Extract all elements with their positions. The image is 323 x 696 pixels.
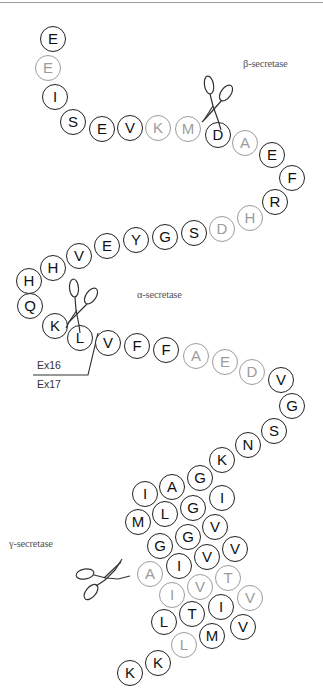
residue-circle: R	[262, 189, 288, 215]
residue-circle: F	[124, 333, 150, 359]
residue-circle: G	[187, 465, 213, 491]
residue-circle: G	[279, 393, 305, 419]
residue-circle: T	[179, 601, 205, 627]
residue-circle: V	[202, 514, 228, 540]
residue-circle: S	[181, 220, 207, 246]
residue-circle: K	[209, 447, 235, 473]
residue-circle: V	[268, 367, 294, 393]
residue-circle: F	[153, 337, 179, 363]
residue-circle: F	[279, 165, 305, 191]
residue-circle: E	[40, 26, 66, 52]
residue-circle: E	[35, 55, 61, 81]
residue-circle: D	[209, 216, 235, 242]
residue-circle: Q	[17, 293, 43, 319]
residue-circle: I	[209, 485, 235, 511]
residue-circle: K	[145, 115, 171, 141]
residue-circle: G	[152, 224, 178, 250]
residue-circle: D	[239, 359, 265, 385]
residue-circle: V	[117, 115, 143, 141]
residue-circle: A	[137, 561, 163, 587]
residue-circle: E	[212, 349, 238, 375]
residue-circle: E	[259, 142, 285, 168]
residue-circle: K	[117, 660, 143, 686]
residue-circle: I	[208, 594, 234, 620]
residue-circle: V	[237, 585, 263, 611]
residue-circle: N	[235, 432, 261, 458]
residue-circle: M	[125, 509, 151, 535]
residue-circle: T	[215, 565, 241, 591]
residue-circle: S	[261, 418, 287, 444]
residue-circle: M	[199, 623, 225, 649]
residue-circle: L	[151, 609, 177, 635]
residue-circle: Y	[123, 227, 149, 253]
residue-circle: I	[132, 481, 158, 507]
residue-circle: V	[194, 544, 220, 570]
residue-circle: L	[152, 501, 178, 527]
residue-circle: D	[205, 122, 231, 148]
residue-circle: H	[16, 268, 42, 294]
residue-circle: K	[42, 313, 68, 339]
residue-circle: I	[42, 84, 68, 110]
alpha-secretase-label: α-secretase	[137, 289, 182, 300]
residue-circle: H	[40, 255, 66, 281]
residue-circle: V	[222, 536, 248, 562]
residue-circle: A	[183, 343, 209, 369]
residue-circle: I	[166, 553, 192, 579]
gamma-secretase-label: γ-secretase	[9, 538, 53, 549]
residue-circle: G	[147, 533, 173, 559]
residue-circle: V	[95, 330, 121, 356]
residue-circle: A	[159, 474, 185, 500]
residue-circle: E	[89, 116, 115, 142]
residue-circle: S	[60, 109, 86, 135]
residue-circle: K	[145, 650, 171, 676]
residue-circle: A	[232, 130, 258, 156]
residue-circle: G	[180, 495, 206, 521]
residue-circle: V	[187, 574, 213, 600]
exon17-label: Ex17	[37, 378, 61, 390]
exon16-label: Ex16	[37, 359, 61, 371]
residue-circle: V	[230, 614, 256, 640]
residue-circle: L	[67, 325, 93, 351]
residue-circle: H	[237, 205, 263, 231]
residue-circle: G	[175, 524, 201, 550]
app-amyloid-sequence-diagram: EEISEVKMDAEFRHDSGYEVHHQKLVFFAEDVGSNKGAII…	[0, 0, 323, 696]
residue-circle: L	[171, 632, 197, 658]
residue-circle: I	[159, 582, 185, 608]
residue-circle: E	[94, 233, 120, 259]
residue-circle: V	[66, 243, 92, 269]
beta-secretase-label: β-secretase	[243, 58, 288, 69]
residue-circle: M	[175, 116, 201, 142]
